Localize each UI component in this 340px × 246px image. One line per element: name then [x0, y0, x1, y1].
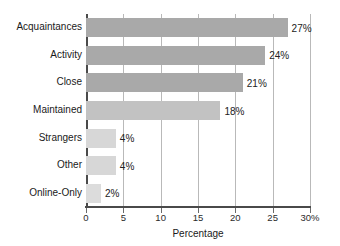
bar-row: 18%	[86, 101, 310, 120]
bar	[86, 18, 288, 37]
category-label: Strangers	[0, 132, 82, 144]
x-axis-title: Percentage	[86, 228, 310, 240]
bar-row: 27%	[86, 18, 310, 37]
category-axis-labels: AcquaintancesActivityCloseMaintainedStra…	[0, 14, 82, 207]
x-tick-label-30: 30%	[300, 212, 319, 224]
x-tick-label-0: 0	[83, 212, 88, 224]
bar-value-label: 18%	[224, 105, 244, 116]
bar	[86, 184, 101, 203]
x-tick-label-20: 20	[230, 212, 241, 224]
category-label: Maintained	[0, 104, 82, 116]
x-tick-label-10: 10	[155, 212, 166, 224]
bar-row: 4%	[86, 129, 310, 148]
x-axis-tick-labels: 051015202530%	[86, 212, 310, 226]
bar-chart: AcquaintancesActivityCloseMaintainedStra…	[0, 0, 340, 246]
bar	[86, 156, 116, 175]
bar-value-label: 21%	[247, 77, 267, 88]
bar-value-label: 24%	[269, 50, 289, 61]
bar-row: 24%	[86, 46, 310, 65]
bar-row: 4%	[86, 156, 310, 175]
x-tick-label-5: 5	[121, 212, 126, 224]
bar	[86, 73, 243, 92]
bar-row: 2%	[86, 184, 310, 203]
bar-value-label: 4%	[120, 133, 134, 144]
bar-row: 21%	[86, 73, 310, 92]
x-tick-label-25: 25	[267, 212, 278, 224]
category-label: Close	[0, 76, 82, 88]
category-label: Activity	[0, 49, 82, 61]
gridline-30	[310, 14, 311, 207]
bar-value-label: 4%	[120, 160, 134, 171]
plot-area: 27%24%21%18%4%4%2%	[86, 14, 310, 207]
bar	[86, 46, 265, 65]
bar	[86, 101, 220, 120]
category-label: Online-Only	[0, 187, 82, 199]
bar-value-label: 27%	[292, 22, 312, 33]
category-label: Other	[0, 159, 82, 171]
bar	[86, 129, 116, 148]
category-label: Acquaintances	[0, 21, 82, 33]
x-tick-label-15: 15	[193, 212, 204, 224]
bar-value-label: 2%	[105, 188, 119, 199]
